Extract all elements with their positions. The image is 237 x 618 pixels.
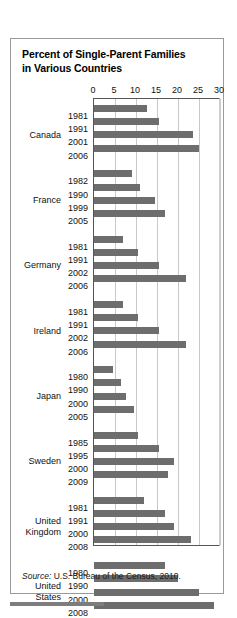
year-label: 2005 [68,217,88,226]
year-label: 2006 [68,152,88,161]
bottom-rule [10,602,104,606]
x-tick-label: 25 [193,85,203,95]
chart-title-line-1: Percent of Single-Parent Families [22,48,214,62]
category-axis-labels: 1981199120012006Canada1982199019992005Fr… [11,98,91,546]
gridline [220,99,221,545]
bar [94,562,165,569]
year-label: 1982 [68,177,88,186]
year-label: 2000 [68,465,88,474]
bar [94,432,138,439]
year-label: 1990 [68,386,88,395]
year-label: 1999 [68,204,88,213]
bar [94,184,140,191]
bar [94,471,168,478]
bar [94,497,144,504]
bar [94,510,165,517]
source-note: Source: U.S. Bureau of the Census, 2010. [22,571,181,581]
source-label: Source: [22,571,51,581]
bar [94,523,174,530]
bar [94,145,199,152]
bar [94,210,165,217]
year-label: 1980 [68,373,88,382]
bar [94,170,132,177]
bar [94,236,123,243]
year-label: 2008 [68,609,88,618]
year-label: 1981 [68,243,88,252]
bar [94,458,174,465]
bar [94,131,193,138]
bar [94,366,113,373]
chart-title-line-2: in Various Countries [22,62,214,76]
x-tick-label: 20 [172,85,182,95]
plot-area [93,98,220,546]
bar [94,197,155,204]
year-label: 1981 [68,112,88,121]
country-label: Canada [29,130,61,141]
bar [94,393,126,400]
year-label: 2001 [68,138,88,147]
year-label: 1990 [68,582,88,591]
year-label: 2002 [68,334,88,343]
bar [94,262,159,269]
year-label: 2009 [68,478,88,487]
x-tick-label: 15 [151,85,161,95]
x-tick-label: 0 [90,85,95,95]
country-label: Sweden [28,456,61,467]
bar [94,275,186,282]
bar [94,406,134,413]
year-label: 1990 [68,191,88,200]
year-label: 2000 [68,530,88,539]
x-tick-label: 5 [111,85,116,95]
bar [94,105,147,112]
bar [94,445,159,452]
year-label: 1991 [68,256,88,265]
year-label: 1995 [68,452,88,461]
year-label: 1991 [68,517,88,526]
year-label: 1991 [68,321,88,330]
year-label: 2005 [68,413,88,422]
year-label: 1981 [68,308,88,317]
x-axis-tick-labels: 051015202530 [11,85,225,97]
country-label: Ireland [33,326,61,337]
year-label: 1981 [68,504,88,513]
year-label: 1985 [68,439,88,448]
year-label: 2006 [68,348,88,357]
bar [94,327,159,334]
year-label: 2008 [68,543,88,552]
x-tick-label: 30 [214,85,224,95]
bar [94,379,121,386]
plot-wrapper: 051015202530 1981199120012006Canada19821… [11,85,225,551]
year-label: 2006 [68,282,88,291]
bar [94,536,191,543]
country-label: Germany [24,260,61,271]
country-label: UnitedStates [35,581,61,603]
bar [94,314,138,321]
country-label: UnitedKingdom [25,516,61,538]
bar [94,301,123,308]
country-label: Japan [36,391,61,402]
source-text: U.S. Bureau of the Census, 2010. [51,571,180,581]
bar [94,602,214,609]
bar [94,249,138,256]
country-label: France [33,195,61,206]
year-label: 2002 [68,269,88,278]
bars-layer [94,99,219,545]
bar [94,118,159,125]
chart-title: Percent of Single-Parent Families in Var… [22,48,214,75]
bar [94,589,199,596]
figure-panel: Percent of Single-Parent Families in Var… [10,38,224,594]
bar [94,341,186,348]
x-tick-label: 10 [130,85,140,95]
year-label: 1991 [68,125,88,134]
year-label: 2000 [68,400,88,409]
